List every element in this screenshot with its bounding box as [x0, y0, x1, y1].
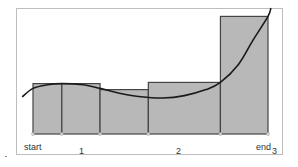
- partition-point-0: [32, 133, 35, 136]
- rectangle-5: [220, 16, 268, 134]
- rectangle-4: [148, 82, 220, 134]
- margin-mark: [5, 156, 7, 157]
- partition-point-1: [60, 133, 63, 136]
- rectangle-2: [62, 84, 100, 134]
- tick-label-start: start: [24, 142, 42, 152]
- tick-label-3: 3: [272, 146, 277, 156]
- tick-label-1: 1: [79, 146, 84, 156]
- tick-label-2: 2: [176, 146, 181, 156]
- tick-label-end: end: [256, 142, 271, 152]
- partition-point-4: [219, 133, 222, 136]
- partition-point-3: [147, 133, 150, 136]
- rectangle-1: [33, 84, 62, 134]
- partition-point-2: [99, 133, 102, 136]
- partition-point-5: [267, 133, 270, 136]
- riemann-sum-diagram: start 1 2 end 3: [0, 0, 298, 167]
